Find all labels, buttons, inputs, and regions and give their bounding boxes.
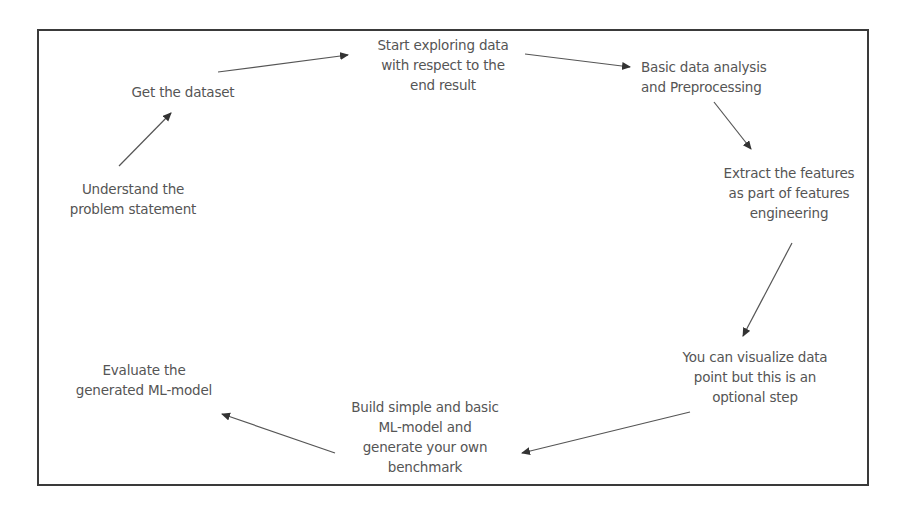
node-line: generate your own [340, 437, 510, 457]
node-line: as part of features [714, 183, 864, 203]
node-visualize-data: You can visualize data point but this is… [670, 347, 840, 407]
node-evaluate-model: Evaluate the generated ML-model [64, 360, 224, 400]
node-line: Extract the features [714, 163, 864, 183]
node-explore-data: Start exploring data with respect to the… [358, 35, 528, 95]
node-line: Start exploring data [358, 35, 528, 55]
node-line: Build simple and basic [340, 397, 510, 417]
node-line: problem statement [58, 199, 208, 219]
node-line: ML-model and [340, 417, 510, 437]
node-line: engineering [714, 203, 864, 223]
node-get-dataset: Get the dataset [118, 82, 248, 102]
node-build-model: Build simple and basic ML-model and gene… [340, 397, 510, 477]
node-line: You can visualize data [670, 347, 840, 367]
node-line: generated ML-model [64, 380, 224, 400]
node-line: optional step [670, 387, 840, 407]
node-feature-engineering: Extract the features as part of features… [714, 163, 864, 223]
node-line: point but this is an [670, 367, 840, 387]
node-line: and Preprocessing [641, 77, 791, 97]
node-line: benchmark [340, 457, 510, 477]
node-line: end result [358, 75, 528, 95]
node-line: Understand the [58, 179, 208, 199]
node-line: Basic data analysis [641, 57, 791, 77]
node-line: Evaluate the [64, 360, 224, 380]
node-line: Get the dataset [118, 82, 248, 102]
node-preprocessing: Basic data analysis and Preprocessing [641, 57, 791, 97]
node-understand-problem: Understand the problem statement [58, 179, 208, 219]
node-line: with respect to the [358, 55, 528, 75]
